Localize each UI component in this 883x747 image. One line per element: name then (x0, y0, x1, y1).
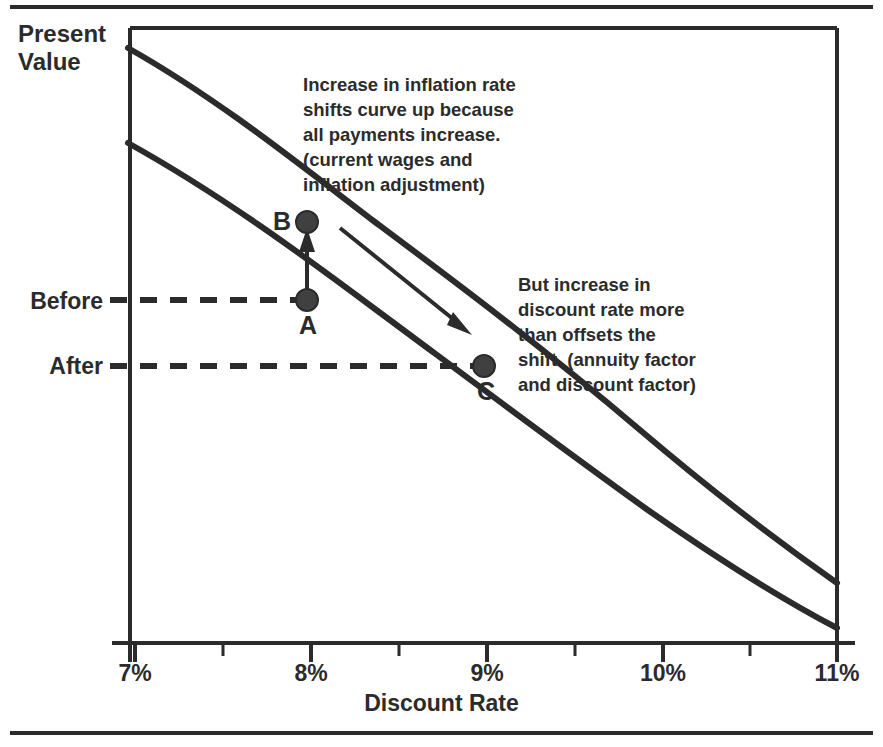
y-axis-title: Present Value (18, 20, 106, 76)
x-tick-label-8: 8% (271, 660, 351, 687)
point-label-a: A (288, 311, 328, 340)
point-marker-c (473, 355, 495, 377)
point-marker-a (296, 289, 318, 311)
x-tick-label-7: 7% (95, 660, 175, 687)
y-tick-label-after: After (0, 353, 103, 380)
x-tick-label-9: 9% (447, 660, 527, 687)
annotation-inflation-note: Increase in inflation rate shifts curve … (303, 72, 583, 197)
y-tick-label-before: Before (0, 288, 103, 315)
point-label-c: C (466, 377, 506, 406)
point-label-b: B (262, 207, 302, 236)
present-value-discount-rate-figure: Present Value Before After 7% 8% 9% 10% … (0, 0, 883, 747)
x-tick-label-10: 10% (623, 660, 703, 687)
x-axis-title: Discount Rate (0, 690, 883, 717)
annotation-discount-note: But increase in discount rate more than … (518, 272, 768, 397)
x-tick-label-11: 11% (797, 660, 877, 687)
